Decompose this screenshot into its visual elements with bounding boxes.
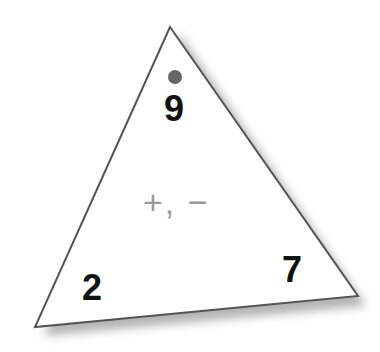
fact-triangle-card [0, 0, 380, 352]
operations-label: +, − [143, 185, 210, 219]
top-number: 9 [164, 91, 184, 127]
bottom-right-number: 7 [282, 252, 302, 288]
bottom-left-number: 2 [82, 270, 102, 306]
dot-marker [168, 70, 182, 84]
